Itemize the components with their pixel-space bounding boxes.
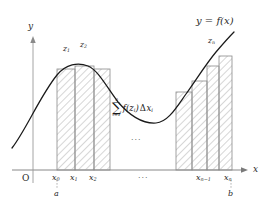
x-tick-x0-sub: 0 (57, 176, 60, 182)
z-label-zn-sub: n (212, 40, 215, 45)
x-tick-label-xn-1: xn−1 (196, 174, 211, 182)
x-tick-x1-sub: 1 (75, 176, 78, 182)
z-label-z1: z1 (63, 45, 70, 54)
sum-term-f: f(z (123, 103, 134, 113)
sum-term: f(zi)Δxi (123, 103, 153, 113)
y-axis-label: y (28, 22, 33, 31)
x-tick-label-xn: xn (224, 174, 232, 182)
z-label-z2-sub: 2 (84, 44, 87, 49)
curve-equation-label: y = f(x) (196, 16, 234, 26)
x-tick-xn-sub: n (229, 176, 232, 182)
origin-label: O (22, 174, 29, 183)
riemann-sum-figure: y x O y = f(x) z1 z2 zn x0 x1 x2 xn−1 xn… (0, 0, 266, 209)
ellipsis-axis: ··· (138, 174, 149, 182)
x-axis-label: x (253, 165, 258, 174)
x-tick-label-x1: x1 (70, 174, 78, 182)
rectangles-left-group (57, 66, 110, 170)
x-tick-xn1-sub: n−1 (201, 176, 212, 182)
x-tick-label-x0: x0 (52, 174, 60, 182)
z-label-z2: z2 (80, 41, 87, 50)
ellipsis-middle: ··· (131, 136, 142, 144)
sigma-lower-limit: i=1 (113, 113, 121, 118)
x-tick-x2-sub: 2 (94, 176, 97, 182)
endpoint-label-b: b (228, 190, 233, 198)
sum-term-dx-sub: i (151, 107, 153, 113)
rectangles-right-group (176, 56, 232, 170)
z-label-z1-sub: 1 (67, 48, 70, 53)
endpoint-label-a: a (54, 190, 59, 198)
delta-icon: Δ (140, 103, 146, 113)
z-label-zn: zn (208, 37, 215, 46)
sigma-column: n ∑ i=1 (112, 98, 121, 118)
sum-term-f-close: ) (135, 103, 138, 113)
x-tick-label-x2: x2 (89, 174, 97, 182)
sum-expression: n ∑ i=1 f(zi)Δxi (112, 98, 153, 118)
